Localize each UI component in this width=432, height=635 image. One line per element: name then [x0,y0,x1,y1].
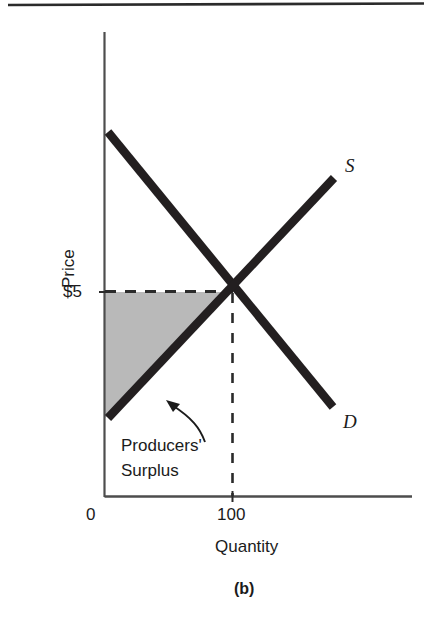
producers-surplus-label-line1: Producers' [121,437,202,454]
x-axis-tick-label-100: 100 [217,506,245,523]
top-divider-rule [8,4,424,6]
origin-label: 0 [86,506,95,523]
supply-curve-label: S [345,156,355,175]
annotation-arrowhead-icon [166,400,180,412]
panel-caption: (b) [234,581,254,597]
producers-surplus-label-line2: Surplus [121,462,179,479]
demand-curve-label: D [343,412,357,431]
y-axis-tick-label-5: $5 [63,283,82,300]
x-axis-title: Quantity [215,538,278,555]
figure-container: Price $5 0 100 Quantity S D Producers' S… [0,0,432,635]
